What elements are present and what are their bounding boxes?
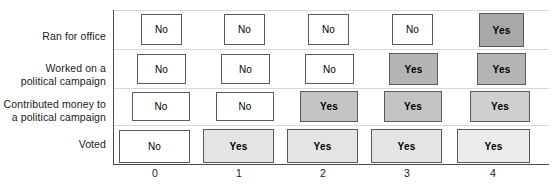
cell-contributed-money-0: No	[132, 92, 190, 121]
cell-ran-for-office-3: No	[392, 14, 433, 45]
cell-ran-for-office-0: No	[141, 14, 182, 45]
cell-worked-campaign-4: Yes	[477, 53, 526, 85]
x-axis-line	[113, 164, 549, 165]
cell-worked-campaign-3: Yes	[389, 53, 438, 85]
cell-worked-campaign-1: No	[221, 54, 270, 84]
cell-worked-campaign-2: No	[305, 54, 354, 84]
cell-ran-for-office-2: No	[308, 14, 349, 45]
cell-voted-0: No	[119, 130, 190, 163]
cell-voted-4: Yes	[457, 129, 530, 163]
band-rule-1	[113, 49, 549, 50]
y-axis-label-contributed-money-to-a-political-campaign: Contributed money to a political campaig…	[4, 98, 106, 123]
cell-ran-for-office-1: No	[224, 14, 265, 45]
cell-contributed-money-1: No	[216, 92, 274, 121]
x-tick-3: 3	[387, 167, 427, 179]
band-rule-top	[113, 10, 549, 11]
x-tick-2: 2	[303, 167, 343, 179]
cell-voted-3: Yes	[371, 129, 442, 163]
y-axis-line	[113, 10, 114, 164]
cell-ran-for-office-4: Yes	[479, 13, 524, 47]
cell-contributed-money-3: Yes	[384, 91, 442, 122]
guttman-scale-chart: Ran for office Worked on a political cam…	[0, 0, 553, 186]
cell-worked-campaign-0: No	[137, 54, 186, 84]
cell-voted-1: Yes	[203, 129, 274, 163]
cell-contributed-money-4: Yes	[470, 91, 530, 122]
band-rule-3	[113, 125, 549, 126]
cell-contributed-money-2: Yes	[300, 91, 358, 122]
band-rule-2	[113, 88, 549, 89]
x-tick-0: 0	[135, 167, 175, 179]
x-tick-4: 4	[473, 167, 513, 179]
x-tick-1: 1	[219, 167, 259, 179]
y-axis-label-worked-on-a-political-campaign: Worked on a political campaign	[21, 62, 106, 87]
y-axis-label-ran-for-office: Ran for office	[42, 30, 106, 43]
y-axis-label-voted: Voted	[79, 138, 106, 151]
cell-voted-2: Yes	[287, 129, 358, 163]
